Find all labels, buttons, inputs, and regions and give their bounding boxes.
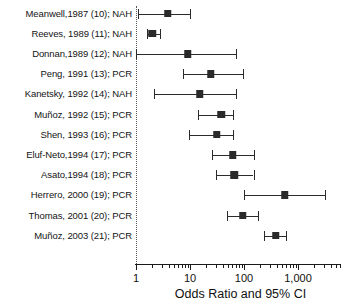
odds-ratio-marker <box>239 212 247 220</box>
x-tick-minor <box>228 264 229 268</box>
x-tick-minor <box>286 264 287 268</box>
x-tick-minor <box>188 264 189 268</box>
x-tick-major <box>136 264 137 270</box>
ci-cap-lower <box>216 170 217 180</box>
x-tick-minor <box>174 264 175 268</box>
ci-row <box>0 8 342 20</box>
ci-cap-lower <box>264 231 265 241</box>
ci-cap-upper <box>236 89 237 99</box>
x-tick-label: 1 <box>133 272 139 284</box>
ci-cap-upper <box>236 49 237 59</box>
odds-ratio-marker <box>281 191 289 199</box>
x-tick-minor <box>293 264 294 268</box>
ci-cap-upper <box>243 69 244 79</box>
ci-row <box>0 169 342 181</box>
ci-cap-upper <box>233 130 234 140</box>
ci-whisker-line <box>198 115 233 116</box>
odds-ratio-marker <box>229 151 237 159</box>
odds-ratio-marker <box>207 70 215 78</box>
odds-ratio-marker <box>149 30 157 38</box>
x-tick-major <box>298 264 299 270</box>
odds-ratio-marker <box>196 90 204 98</box>
ci-cap-upper <box>254 150 255 160</box>
x-tick-label: 100 <box>235 272 253 284</box>
ci-row <box>0 210 342 222</box>
ci-cap-upper <box>258 211 259 221</box>
x-tick-label: 10 <box>184 272 196 284</box>
ci-row <box>0 28 342 40</box>
x-tick-label: 1,000 <box>284 272 312 284</box>
odds-ratio-marker <box>272 232 280 240</box>
ci-cap-lower <box>154 89 155 99</box>
ci-cap-lower <box>138 9 139 19</box>
x-tick-minor <box>162 264 163 268</box>
x-tick-minor <box>239 264 240 268</box>
x-tick-minor <box>336 264 337 268</box>
ci-cap-lower <box>212 150 213 160</box>
odds-ratio-marker <box>164 10 172 18</box>
ci-row <box>0 149 342 161</box>
ci-row <box>0 189 342 201</box>
ci-row <box>0 230 342 242</box>
x-tick-minor <box>277 264 278 268</box>
x-tick-minor <box>270 264 271 268</box>
x-tick-major <box>190 264 191 270</box>
odds-ratio-marker <box>213 131 221 139</box>
x-tick-minor <box>324 264 325 268</box>
ci-cap-upper <box>160 29 161 39</box>
x-tick-minor <box>185 264 186 268</box>
ci-row <box>0 68 342 80</box>
x-tick-minor <box>223 264 224 268</box>
x-tick-minor <box>296 264 297 268</box>
x-tick-minor <box>242 264 243 268</box>
x-tick-minor <box>340 264 341 268</box>
x-tick-minor <box>206 264 207 268</box>
odds-ratio-marker <box>218 111 226 119</box>
ci-cap-upper <box>254 170 255 180</box>
x-tick-minor <box>290 264 291 268</box>
x-axis-title: Odds Ratio and 95% CI <box>175 287 306 301</box>
x-tick-minor <box>169 264 170 268</box>
x-tick-minor <box>331 264 332 268</box>
odds-ratio-marker <box>231 171 239 179</box>
ci-cap-lower <box>136 49 137 59</box>
ci-row <box>0 109 342 121</box>
ci-row <box>0 88 342 100</box>
x-tick-minor <box>152 264 153 268</box>
ci-cap-upper <box>190 9 191 19</box>
forest-plot: 1101001,000 Odds Ratio and 95% CI Meanwe… <box>0 0 342 307</box>
x-tick-minor <box>178 264 179 268</box>
ci-cap-lower <box>227 211 228 221</box>
ci-cap-upper <box>233 110 234 120</box>
ci-row <box>0 48 342 60</box>
x-tick-minor <box>282 264 283 268</box>
ci-cap-upper <box>325 190 326 200</box>
x-tick-minor <box>236 264 237 268</box>
x-tick-minor <box>182 264 183 268</box>
ci-cap-lower <box>183 69 184 79</box>
x-tick-minor <box>232 264 233 268</box>
x-tick-major <box>244 264 245 270</box>
x-tick-minor <box>216 264 217 268</box>
ci-cap-lower <box>189 130 190 140</box>
ci-cap-lower <box>244 190 245 200</box>
odds-ratio-marker <box>184 50 192 58</box>
ci-cap-upper <box>286 231 287 241</box>
x-tick-minor <box>314 264 315 268</box>
ci-whisker-line <box>189 135 233 136</box>
x-tick-minor <box>260 264 261 268</box>
ci-row <box>0 129 342 141</box>
ci-cap-lower <box>198 110 199 120</box>
